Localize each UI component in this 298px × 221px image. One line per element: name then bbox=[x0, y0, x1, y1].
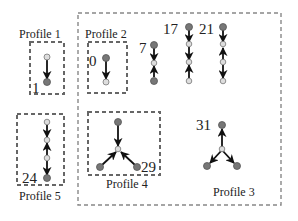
profile-1-label: Profile 1 bbox=[19, 27, 61, 41]
node-0: 0 bbox=[89, 53, 97, 69]
profile-2-label: Profile 2 bbox=[85, 27, 127, 41]
profile-5-label: Profile 5 bbox=[19, 189, 61, 203]
node-31: 31 bbox=[196, 117, 211, 133]
profiles-diagram: Profile 1 1 Profile 2 0 7 17 21 31 Profi… bbox=[0, 0, 298, 221]
profile-4-label: Profile 4 bbox=[106, 177, 148, 191]
profile-3-label: Profile 3 bbox=[213, 185, 255, 199]
node-7: 7 bbox=[139, 40, 147, 56]
node-1: 1 bbox=[32, 80, 40, 96]
node-24: 24 bbox=[22, 170, 38, 186]
node-17: 17 bbox=[163, 21, 179, 37]
node-21: 21 bbox=[199, 21, 214, 37]
node-29: 29 bbox=[141, 159, 156, 175]
